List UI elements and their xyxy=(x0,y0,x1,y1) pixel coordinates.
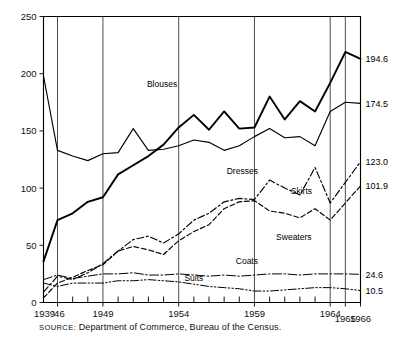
series-label-sweaters: Sweaters xyxy=(276,232,311,242)
x-tick-label-1959: 1959 xyxy=(244,308,265,319)
source-note: SOURCE: Department of Commerce, Bureau o… xyxy=(39,322,281,332)
end-value-dresses: 174.5 xyxy=(366,99,389,109)
line-chart: 050100150200250 1939'4619491954195919641… xyxy=(0,0,407,347)
end-value-sweaters: 101.9 xyxy=(366,181,389,191)
series-label-suits: Suits xyxy=(184,273,203,283)
series-label-skirts: Skirts xyxy=(291,186,312,196)
series-line-blouses xyxy=(44,52,361,261)
x-tick-label-1966: 1966 xyxy=(350,313,371,324)
x-tick-label-46: '46 xyxy=(52,308,64,319)
y-tick-label-150: 150 xyxy=(21,125,37,136)
y-axis-tick-labels: 050100150200250 xyxy=(21,11,37,308)
y-tick-label-100: 100 xyxy=(21,183,37,194)
end-value-labels-group: 194.6174.5123.0101.924.610.5 xyxy=(366,54,389,296)
series-annotations-group: BlousesDressesSkirtsSweatersCoatsSuits xyxy=(147,79,312,282)
series-lines-group xyxy=(44,52,361,298)
source-note-text: Department of Commerce, Bureau of the Ce… xyxy=(79,322,282,332)
end-value-blouses: 194.6 xyxy=(366,54,389,64)
y-tick-label-200: 200 xyxy=(21,68,37,79)
series-line-dresses xyxy=(44,76,361,161)
y-tick-label-0: 0 xyxy=(31,297,36,308)
end-value-coats: 24.6 xyxy=(366,270,384,280)
series-label-blouses: Blouses xyxy=(147,79,177,89)
end-value-suits: 10.5 xyxy=(366,286,384,296)
end-value-skirts: 123.0 xyxy=(366,157,389,167)
x-tick-label-1949: 1949 xyxy=(92,308,113,319)
x-tick-label-1954: 1954 xyxy=(168,308,189,319)
series-label-coats: Coats xyxy=(236,256,258,266)
y-tickmarks-group xyxy=(40,17,44,303)
source-note-prefix: SOURCE: xyxy=(39,323,76,332)
figure-container: 050100150200250 1939'4619491954195919641… xyxy=(0,0,407,347)
y-tick-label-250: 250 xyxy=(21,11,37,22)
y-tick-label-50: 50 xyxy=(26,240,37,251)
series-label-dresses: Dresses xyxy=(227,166,258,176)
gridlines-group xyxy=(58,17,346,303)
